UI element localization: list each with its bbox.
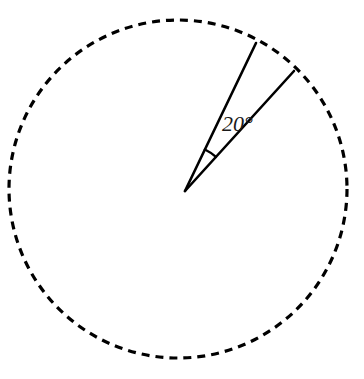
angle-measure-label: 20° — [222, 111, 253, 136]
diagram-background — [0, 0, 364, 379]
figure-container: 20° — [0, 0, 364, 379]
geometry-diagram: 20° — [0, 0, 364, 379]
